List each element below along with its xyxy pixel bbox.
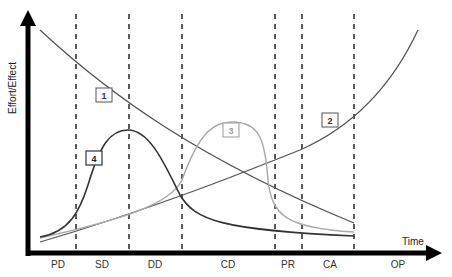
x-axis-arrow-icon	[426, 245, 442, 261]
phase-label-op: OP	[391, 259, 406, 270]
curve-1	[40, 30, 354, 223]
phase-label-cd: CD	[221, 259, 235, 270]
phase-label-pd: PD	[51, 259, 65, 270]
y-axis-label: Effort/Effect	[7, 62, 18, 114]
effort-effect-diagram: 1 2 3 4 Effort/Effect Time PD SD DD CD P…	[0, 0, 452, 277]
phase-labels: PD SD DD CD PR CA OP	[51, 259, 406, 270]
curve-4-label-text: 4	[91, 154, 96, 164]
phase-label-dd: DD	[148, 259, 162, 270]
curve-1-label: 1	[96, 88, 112, 102]
y-axis-arrow-icon	[20, 10, 36, 26]
curve-2-label-text: 2	[327, 116, 332, 126]
phase-label-sd: SD	[95, 259, 109, 270]
phase-label-pr: PR	[281, 259, 295, 270]
phase-label-ca: CA	[323, 259, 337, 270]
curve-3-label: 3	[223, 123, 239, 137]
curve-3	[40, 122, 354, 238]
x-axis-label: Time	[402, 236, 424, 247]
curve-1-label-text: 1	[101, 91, 106, 101]
curve-2-label: 2	[322, 113, 338, 127]
curve-3-label-text: 3	[228, 126, 233, 136]
curve-4-label: 4	[86, 151, 102, 165]
